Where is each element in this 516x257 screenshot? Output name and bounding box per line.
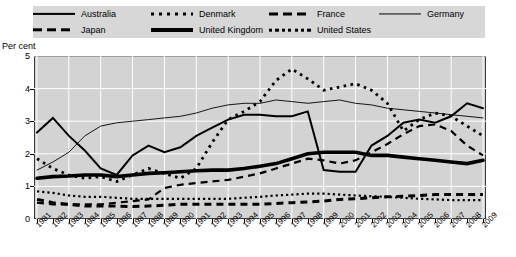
- chart-figure: AustraliaDenmarkFranceGermanyJapanUnited…: [0, 0, 516, 257]
- x-tick-mark: [244, 219, 245, 223]
- x-tick-mark: [149, 219, 150, 223]
- legend-label: United Kingdom: [199, 25, 263, 35]
- x-tick-mark: [85, 219, 86, 223]
- x-tick-mark: [308, 219, 309, 223]
- x-tick-mark: [164, 219, 165, 223]
- y-tick-label: 2: [16, 149, 30, 159]
- x-tick-mark: [212, 219, 213, 223]
- x-tick-mark: [53, 219, 54, 223]
- legend-swatch-icon: [269, 25, 311, 35]
- x-tick-mark: [435, 219, 436, 223]
- legend-swatch-icon: [269, 9, 311, 19]
- legend-item-australia[interactable]: Australia: [33, 6, 151, 22]
- y-tick-mark: [30, 154, 34, 155]
- plot-area: [34, 56, 486, 219]
- y-axis-ticks: 012345: [14, 56, 30, 219]
- legend-item-japan[interactable]: Japan: [33, 22, 151, 38]
- x-tick-mark: [117, 219, 118, 223]
- legend-swatch-icon: [151, 9, 193, 19]
- legend-label: France: [317, 9, 345, 19]
- y-tick-label: 1: [16, 181, 30, 191]
- y-tick-mark: [30, 186, 34, 187]
- legend-label: Australia: [81, 9, 116, 19]
- legend-item-germany[interactable]: Germany: [379, 6, 485, 22]
- x-tick-mark: [133, 219, 134, 223]
- legend-label: Germany: [427, 9, 464, 19]
- x-tick-mark: [69, 219, 70, 223]
- y-tick-mark: [30, 121, 34, 122]
- x-tick-mark: [276, 219, 277, 223]
- x-tick-mark: [403, 219, 404, 223]
- legend-swatch-icon: [33, 25, 75, 35]
- legend-item-united-states[interactable]: United States: [269, 22, 379, 38]
- x-tick-mark: [372, 219, 373, 223]
- x-tick-mark: [292, 219, 293, 223]
- legend-label: Japan: [81, 25, 106, 35]
- x-tick-mark: [419, 219, 420, 223]
- x-tick-mark: [451, 219, 452, 223]
- y-tick-label: 0: [16, 214, 30, 224]
- y-tick-label: 5: [16, 51, 30, 61]
- legend-label: United States: [317, 25, 371, 35]
- legend-item-france[interactable]: France: [269, 6, 379, 22]
- chart-legend: AustraliaDenmarkFranceGermanyJapanUnited…: [33, 6, 485, 38]
- y-tick-label: 3: [16, 116, 30, 126]
- y-tick-mark: [30, 89, 34, 90]
- y-axis-title: Per cent: [2, 41, 36, 51]
- x-tick-mark: [228, 219, 229, 223]
- plot-svg: [34, 56, 486, 219]
- x-tick-mark: [180, 219, 181, 223]
- x-tick-mark: [260, 219, 261, 223]
- legend-swatch-icon: [151, 25, 193, 35]
- x-tick-mark: [37, 219, 38, 223]
- x-tick-mark: [196, 219, 197, 223]
- x-tick-mark: [387, 219, 388, 223]
- legend-item-denmark[interactable]: Denmark: [151, 6, 269, 22]
- x-tick-mark: [356, 219, 357, 223]
- x-tick-mark: [467, 219, 468, 223]
- x-tick-mark: [101, 219, 102, 223]
- x-tick-mark: [483, 219, 484, 223]
- legend-item-united-kingdom[interactable]: United Kingdom: [151, 22, 269, 38]
- x-tick-mark: [324, 219, 325, 223]
- y-tick-label: 4: [16, 84, 30, 94]
- legend-swatch-icon: [379, 9, 421, 19]
- x-tick-mark: [340, 219, 341, 223]
- x-axis-labels: 1981198219831984198519861987198819891990…: [34, 221, 486, 257]
- legend-label: Denmark: [199, 9, 236, 19]
- legend-swatch-icon: [33, 9, 75, 19]
